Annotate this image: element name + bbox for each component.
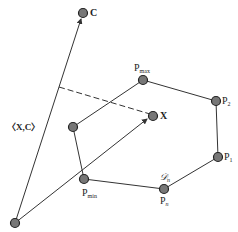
vector-x xyxy=(15,119,147,223)
inner-product-label: 〈X,C〉 xyxy=(7,122,40,132)
point-pn xyxy=(160,185,169,194)
point-p1 xyxy=(214,153,223,162)
point-pmax xyxy=(139,76,148,85)
label-p2: P2 xyxy=(222,96,231,109)
label-dn-main: 𝒟 xyxy=(160,172,167,182)
polygon-dn xyxy=(73,80,218,189)
point-origin xyxy=(11,219,20,228)
label-x: X xyxy=(160,111,167,121)
label-pmin-sub: min xyxy=(88,193,97,199)
label-p1-sub: 1 xyxy=(230,157,233,163)
point-p2 xyxy=(212,97,221,106)
label-p1: P1 xyxy=(224,152,233,165)
diagram-svg xyxy=(0,0,238,232)
point-c xyxy=(79,9,88,18)
label-p2-sub: 2 xyxy=(228,101,231,107)
vector-c xyxy=(15,19,81,223)
point-pmin xyxy=(80,175,89,184)
label-pmax-sub: max xyxy=(140,68,150,74)
label-dn-sub: n xyxy=(167,177,170,183)
label-c: C xyxy=(90,8,97,18)
label-pn-sub: n xyxy=(166,201,169,207)
projection-dashed-line xyxy=(59,87,150,114)
label-pmax: Pmax xyxy=(134,63,150,76)
label-pmin: Pmin xyxy=(82,188,97,201)
label-pn: Pn xyxy=(160,196,169,209)
point-pleft xyxy=(69,123,78,132)
diagram-canvas: C X 〈X,C〉 Pmax P2 P1 Pn Pmin 𝒟n xyxy=(0,0,238,232)
label-dn: 𝒟n xyxy=(160,172,170,185)
point-x xyxy=(149,112,158,121)
